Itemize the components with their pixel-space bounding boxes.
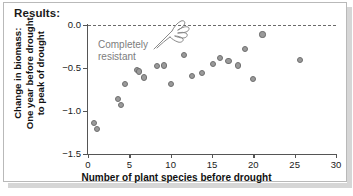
data-point: [161, 62, 167, 68]
y-axis-tick-label: −0.5: [62, 62, 81, 73]
x-axis-tick: [295, 154, 296, 158]
data-point: [122, 81, 128, 87]
data-point: [225, 58, 231, 64]
data-point: [297, 57, 303, 63]
data-point: [217, 55, 223, 61]
y-axis-tick-label: −1.5: [62, 148, 81, 159]
x-axis-tick-label: 10: [165, 159, 176, 170]
x-axis-tick: [253, 154, 254, 158]
x-axis-tick: [171, 154, 172, 158]
data-point: [168, 81, 174, 87]
y-axis-tick: [83, 111, 87, 112]
data-point: [259, 31, 265, 37]
x-axis-tick-label: 5: [127, 159, 132, 170]
x-axis-tick: [212, 154, 213, 158]
y-axis-title-line-3: to peak of drought: [35, 0, 47, 148]
data-point: [199, 70, 205, 76]
y-axis-tick: [83, 154, 87, 155]
data-point: [189, 73, 195, 79]
x-axis-tick-label: 20: [248, 159, 259, 170]
x-axis-tick: [88, 154, 89, 158]
data-point: [118, 102, 124, 108]
pointing-hand-icon: [152, 19, 192, 51]
y-axis-title: Change in biomass: One year before droug…: [12, 0, 47, 148]
data-point: [235, 62, 241, 68]
y-axis-title-line-1: Change in biomass:: [12, 0, 24, 148]
x-axis-tick-label: 0: [85, 159, 90, 170]
annotation-completely-resistant: Completely resistant: [98, 39, 148, 63]
x-axis-tick-label: 30: [331, 159, 342, 170]
x-axis-tick-label: 25: [289, 159, 300, 170]
data-point: [242, 46, 248, 52]
x-axis-title: Number of plant species before drought: [0, 172, 353, 183]
data-point: [94, 126, 100, 132]
data-point: [250, 76, 256, 82]
y-axis-tick: [83, 68, 87, 69]
y-axis-tick-label: −1.0: [62, 105, 81, 116]
figure-shadow-right: [347, 7, 352, 188]
results-figure: Results: 0.0−0.5−1.0−1.5 051015202530 Co…: [0, 0, 353, 196]
y-axis-tick-label: 0.0: [68, 19, 81, 30]
x-axis-tick: [336, 154, 337, 158]
data-point: [154, 63, 160, 69]
y-axis-title-line-2: One year before drought: [23, 0, 35, 148]
data-point: [141, 74, 147, 80]
data-point: [210, 61, 216, 67]
x-axis-tick: [129, 154, 130, 158]
y-axis-tick: [83, 25, 87, 26]
x-axis-tick-label: 15: [207, 159, 218, 170]
figure-shadow-bottom: [8, 183, 352, 188]
data-point: [181, 52, 187, 58]
